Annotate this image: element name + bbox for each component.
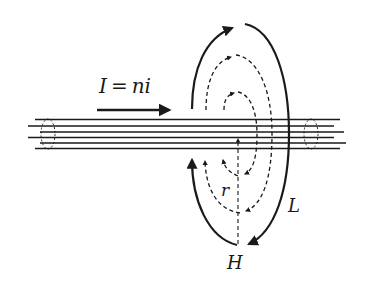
left-end-ellipse (41, 119, 55, 149)
inner-loop-upper-left-arc (224, 93, 234, 110)
outer-loop-lower-left-arc (192, 160, 237, 245)
outer-loop-right-arc (245, 24, 289, 244)
bundle-end-ellipses (41, 119, 318, 149)
current-expression: ni (132, 74, 151, 98)
current-symbol: I (99, 74, 107, 98)
current-equation: I=ni (99, 76, 151, 96)
middle-loop (205, 55, 272, 213)
diagram-canvas: I=ni r L H (0, 0, 368, 285)
radius-label: r (221, 182, 229, 199)
middle-loop-right-arc (236, 55, 272, 211)
right-end-ellipse (304, 119, 318, 149)
equals-sign: = (107, 74, 132, 98)
inner-loop-lower-left-arc (223, 160, 238, 176)
wire-bundle (28, 120, 346, 149)
field-label: H (227, 254, 243, 272)
diagram-graphics (0, 0, 368, 285)
inner-loop (223, 92, 257, 176)
inner-loop-right-arc (238, 92, 257, 174)
middle-loop-upper-left-arc (206, 57, 231, 110)
loop-label: L (288, 197, 300, 215)
outer-loop-L (192, 24, 289, 245)
outer-loop-upper-left-arc (192, 28, 232, 109)
